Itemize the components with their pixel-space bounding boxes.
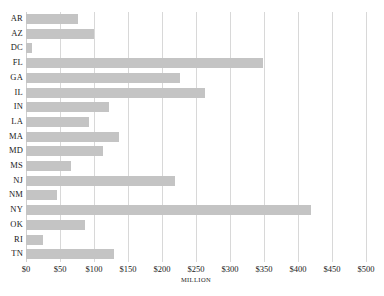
y-axis-label-OK: OK xyxy=(0,219,23,229)
y-axis-label-TN: TN xyxy=(0,248,23,258)
gridline-500 xyxy=(366,12,367,262)
y-axis-label-LA: LA xyxy=(0,116,23,126)
chart-title-cropped xyxy=(0,0,384,5)
bar-row xyxy=(26,27,366,42)
x-axis-label-0: $0 xyxy=(22,263,31,275)
bar-row xyxy=(26,144,366,159)
x-axis-title: MILLION xyxy=(181,276,211,283)
bar-row xyxy=(26,71,366,86)
y-axis-label-MD: MD xyxy=(0,145,23,155)
plot-area xyxy=(26,12,366,262)
bar-RI[interactable] xyxy=(26,235,43,245)
x-axis-label-450: $450 xyxy=(324,263,341,275)
bar-OK[interactable] xyxy=(26,220,85,230)
bar-row xyxy=(26,247,366,262)
bar-LA[interactable] xyxy=(26,117,89,127)
bar-MD[interactable] xyxy=(26,146,103,156)
y-axis-label-NJ: NJ xyxy=(0,175,23,185)
bar-row xyxy=(26,86,366,101)
x-axis-label-200: $200 xyxy=(154,263,171,275)
bar-DC[interactable] xyxy=(26,43,32,53)
y-axis-label-AR: AR xyxy=(0,13,23,23)
bar-row xyxy=(26,130,366,145)
bar-row xyxy=(26,159,366,174)
bar-TN[interactable] xyxy=(26,249,114,259)
y-axis-label-FL: FL xyxy=(0,57,23,67)
y-axis-label-GA: GA xyxy=(0,72,23,82)
bar-row xyxy=(26,115,366,130)
x-axis-labels: $0$50$100$150$200$250$300$350$400$450$50… xyxy=(26,263,366,277)
bar-FL[interactable] xyxy=(26,58,263,68)
bar-row xyxy=(26,174,366,189)
bar-row xyxy=(26,41,366,56)
bar-GA[interactable] xyxy=(26,73,180,83)
bar-NY[interactable] xyxy=(26,205,311,215)
bar-MS[interactable] xyxy=(26,161,71,171)
bar-row xyxy=(26,218,366,233)
x-axis-label-150: $150 xyxy=(120,263,137,275)
bar-row xyxy=(26,56,366,71)
y-axis-label-IL: IL xyxy=(0,87,23,97)
x-axis-label-50: $50 xyxy=(54,263,67,275)
x-axis-label-300: $300 xyxy=(222,263,239,275)
bar-NJ[interactable] xyxy=(26,176,175,186)
bar-row xyxy=(26,12,366,27)
bar-row xyxy=(26,188,366,203)
bar-NM[interactable] xyxy=(26,190,57,200)
y-axis-label-NM: NM xyxy=(0,189,23,199)
x-axis-label-400: $400 xyxy=(290,263,307,275)
y-axis-label-NY: NY xyxy=(0,204,23,214)
y-axis-label-RI: RI xyxy=(0,234,23,244)
y-axis-labels: ARAZDCFLGAILINLAMAMDMSNJNMNYOKRITN xyxy=(0,12,23,262)
y-axis-label-AZ: AZ xyxy=(0,28,23,38)
y-axis-label-MA: MA xyxy=(0,131,23,141)
bar-IL[interactable] xyxy=(26,88,205,98)
y-axis-label-DC: DC xyxy=(0,42,23,52)
x-axis-label-100: $100 xyxy=(86,263,103,275)
bar-AR[interactable] xyxy=(26,14,78,24)
bar-row xyxy=(26,203,366,218)
x-axis-label-250: $250 xyxy=(188,263,205,275)
bar-MA[interactable] xyxy=(26,132,119,142)
bar-chart: ARAZDCFLGAILINLAMAMDMSNJNMNYOKRITN $0$50… xyxy=(0,0,384,296)
bar-IN[interactable] xyxy=(26,102,109,112)
x-axis-label-500: $500 xyxy=(358,263,375,275)
bar-AZ[interactable] xyxy=(26,29,94,39)
bars-layer xyxy=(26,12,366,262)
bar-row xyxy=(26,233,366,248)
bar-row xyxy=(26,100,366,115)
y-axis-label-MS: MS xyxy=(0,160,23,170)
y-axis-label-IN: IN xyxy=(0,101,23,111)
x-axis-label-350: $350 xyxy=(256,263,273,275)
